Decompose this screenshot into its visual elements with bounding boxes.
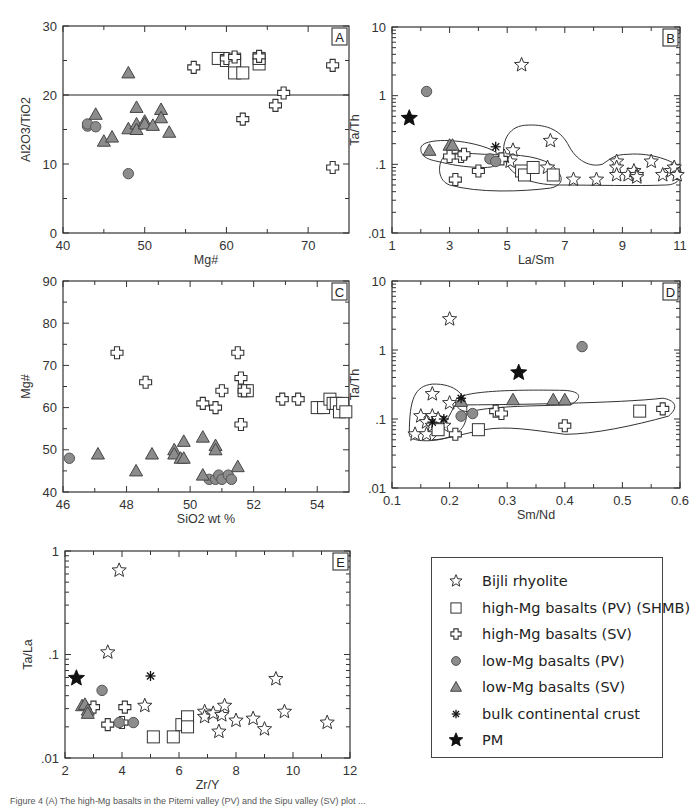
x-axis-label: Sm/Nd [517,508,555,522]
x-tick-label: 60 [219,238,233,253]
y-tick-label: 80 [43,316,57,331]
x-tick-label: 40 [56,238,70,253]
hsv-marker-icon [444,622,468,646]
panel-b: 1357911.01.1110La/SmTa/ThB [348,20,687,268]
x-tick-label: 1 [388,238,395,253]
legend-label: high-Mg basalts (PV) (SHMB) [482,600,690,616]
panel-label: E [336,555,345,570]
x-tick-label: 0.5 [613,493,631,508]
panel-c: 4648505254405060708090SiO2 wt %Mg#C [19,274,352,527]
x-tick-label: 6 [175,763,182,778]
y-axis-label: Ta/La [21,639,35,670]
bcc-marker-icon [444,702,468,726]
legend-label: high-Mg basalts (SV) [482,626,632,642]
x-tick-label: 46 [56,497,70,512]
x-tick-label: 2 [61,763,68,778]
x-tick-label: 48 [119,497,133,512]
y-tick-label: 10 [372,20,386,35]
legend: Bijli rhyolitehigh-Mg basalts (PV) (SHMB… [431,557,663,758]
x-axis-label: SiO2 wt % [177,512,235,526]
y-tick-label: 1 [52,544,59,559]
panel-d: 0.10.20.30.40.50.6.01.1110Sm/NdTa/ThD [348,274,689,523]
x-tick-label: 50 [137,238,151,253]
y-tick-label: 20 [43,88,57,103]
legend-label: bulk continental crust [482,706,640,722]
panel-label: D [666,285,675,300]
y-tick-label: 70 [43,358,57,373]
x-tick-label: 0.2 [441,493,459,508]
lsv-marker-icon [444,675,468,699]
y-tick-label: 10 [43,157,57,172]
rhy-marker-icon [444,569,468,593]
x-tick-label: 4 [118,763,125,778]
legend-item-bcc: bulk continental crust [432,701,640,727]
x-tick-label: 70 [301,238,315,253]
x-tick-label: 7 [561,238,568,253]
y-tick-label: .1 [375,157,386,172]
y-tick-label: 0 [50,226,57,241]
y-tick-label: .1 [375,412,386,427]
legend-label: PM [482,732,503,748]
y-tick-label: 40 [43,485,57,500]
legend-item-rhy: Bijli rhyolite [432,568,568,594]
y-axis-label: Mg# [19,374,33,398]
x-tick-label: 54 [310,497,324,512]
y-tick-label: 50 [43,442,57,457]
legend-item-pm: PM [432,727,503,753]
legend-label: Bijli rhyolite [482,573,568,589]
x-axis-label: Zr/Y [196,778,220,792]
x-tick-label: 3 [446,238,453,253]
x-tick-label: 8 [232,763,239,778]
plot-frame [392,27,680,233]
panel-label: C [335,285,344,300]
panel-label: B [666,31,675,46]
y-tick-label: 60 [43,400,57,415]
hpv-marker-icon [444,596,468,620]
y-tick-label: 1 [379,343,386,358]
y-tick-label: .01 [368,481,386,496]
panel-e: 24681012.01.11Zr/YTa/LaE [21,544,357,793]
plot-frame [63,281,349,492]
x-tick-label: 5 [504,238,511,253]
legend-label: low-Mg basalts (SV) [482,679,625,695]
x-tick-label: 0.6 [671,493,689,508]
x-tick-label: 0.3 [498,493,516,508]
y-tick-label: 1 [379,88,386,103]
y-tick-label: 30 [43,19,57,34]
x-tick-label: 52 [246,497,260,512]
x-axis-label: Mg# [194,253,218,267]
legend-item-lsv: low-Mg basalts (SV) [432,674,625,700]
y-tick-label: 10 [372,274,386,289]
y-tick-label: .01 [41,751,59,766]
x-tick-label: 50 [183,497,197,512]
x-axis-label: La/Sm [518,253,554,267]
y-tick-label: .01 [368,226,386,241]
y-tick-label: 90 [43,274,57,289]
figure-caption: Figure 4 (A) The high-Mg basalts in the … [10,796,366,806]
pm-marker-icon [444,728,468,752]
x-tick-label: 0.4 [556,493,574,508]
y-axis-label: Ta/Th [348,369,362,400]
panel-label: A [335,30,344,45]
x-tick-label: 10 [286,763,300,778]
legend-item-lpv: low-Mg basalts (PV) [432,648,625,674]
y-axis-label: Ta/Th [348,114,362,145]
panel-a: 405060700102030Mg#Al2O3/TiO2A [19,19,349,268]
x-tick-label: 12 [343,763,357,778]
lpv-marker-icon [444,649,468,673]
y-axis-label: Al2O3/TiO2 [19,97,33,162]
x-tick-label: 9 [619,238,626,253]
plot-frame [63,26,349,233]
x-tick-label: 11 [673,238,687,253]
legend-item-hpv: high-Mg basalts (PV) (SHMB) [432,595,690,621]
y-tick-label: .1 [48,647,59,662]
legend-item-hsv: high-Mg basalts (SV) [432,621,632,647]
legend-label: low-Mg basalts (PV) [482,653,625,669]
